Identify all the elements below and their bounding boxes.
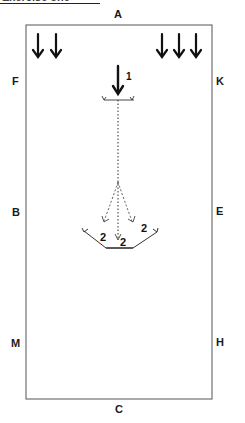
step-1-label: 1 xyxy=(126,71,132,82)
step-2-label-right: 2 xyxy=(141,222,147,234)
down-arrow-icon xyxy=(191,34,201,57)
down-arrow-icon xyxy=(157,34,167,57)
halt-line-top xyxy=(102,96,134,100)
step-1-arrow-icon xyxy=(113,66,123,94)
entry-arrows-right xyxy=(157,34,201,57)
entry-arrows-left xyxy=(33,34,61,57)
down-arrow-icon xyxy=(174,34,184,57)
step-2-label-center: 2 xyxy=(120,236,126,248)
down-arrow-icon xyxy=(51,34,61,57)
step-2-label-left: 2 xyxy=(100,231,106,243)
arena-diagram: 1 2 2 2 xyxy=(0,0,245,423)
down-arrow-icon xyxy=(33,34,43,57)
